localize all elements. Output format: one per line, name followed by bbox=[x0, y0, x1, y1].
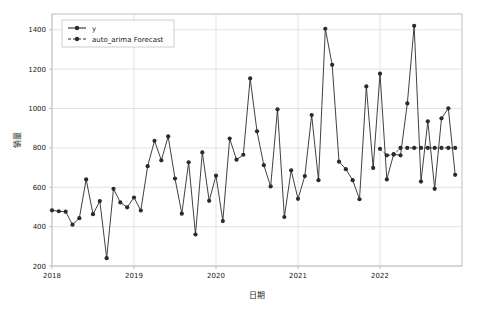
data-point bbox=[453, 173, 457, 177]
legend-label-1: auto_arima Forecast bbox=[92, 36, 164, 44]
data-point bbox=[50, 208, 54, 212]
data-point bbox=[221, 219, 225, 223]
series-line-1 bbox=[380, 148, 455, 155]
data-point bbox=[241, 153, 245, 157]
data-point bbox=[105, 256, 109, 260]
data-point bbox=[207, 199, 211, 203]
data-point bbox=[296, 197, 300, 201]
timeseries-line-chart: 2004006008001000120014002018201920202021… bbox=[0, 0, 493, 310]
data-point bbox=[405, 101, 409, 105]
y-axis-label: 销量 bbox=[12, 132, 22, 148]
data-point bbox=[255, 129, 259, 133]
series-line-0 bbox=[52, 26, 455, 258]
data-point bbox=[446, 146, 450, 150]
y-tick-label: 1000 bbox=[28, 105, 46, 113]
data-point bbox=[337, 160, 341, 164]
figure-canvas: 2004006008001000120014002018201920202021… bbox=[0, 0, 493, 310]
x-tick-label: 2021 bbox=[289, 272, 307, 280]
data-point bbox=[364, 84, 368, 88]
y-tick-label: 800 bbox=[33, 144, 46, 152]
data-point bbox=[64, 210, 68, 214]
data-point bbox=[398, 153, 402, 157]
data-point bbox=[378, 147, 382, 151]
data-point bbox=[357, 197, 361, 201]
data-point bbox=[98, 199, 102, 203]
data-point bbox=[439, 116, 443, 120]
x-tick-label: 2019 bbox=[125, 272, 143, 280]
data-point bbox=[84, 177, 88, 181]
data-point bbox=[269, 184, 273, 188]
x-tick-label: 2022 bbox=[371, 272, 389, 280]
data-point bbox=[453, 146, 457, 150]
data-point bbox=[412, 146, 416, 150]
data-point bbox=[57, 209, 61, 213]
y-tick-label: 400 bbox=[33, 223, 46, 231]
data-point bbox=[351, 178, 355, 182]
chart-plot-area: 2004006008001000120014002018201920202021… bbox=[0, 0, 493, 310]
data-point bbox=[310, 113, 314, 117]
data-point bbox=[439, 146, 443, 150]
y-tick-label: 200 bbox=[33, 263, 46, 271]
data-point bbox=[433, 146, 437, 150]
y-tick-label: 600 bbox=[33, 184, 46, 192]
x-tick-label: 2020 bbox=[207, 272, 225, 280]
data-point bbox=[446, 106, 450, 110]
data-point bbox=[187, 160, 191, 164]
data-point bbox=[344, 167, 348, 171]
data-point bbox=[173, 176, 177, 180]
legend-marker-0 bbox=[75, 26, 79, 30]
data-point bbox=[303, 174, 307, 178]
data-point bbox=[214, 174, 218, 178]
data-point bbox=[385, 177, 389, 181]
data-point bbox=[426, 146, 430, 150]
data-point bbox=[262, 163, 266, 167]
legend-label-0: y bbox=[92, 25, 96, 33]
data-point bbox=[91, 212, 95, 216]
data-point bbox=[180, 212, 184, 216]
data-point bbox=[398, 146, 402, 150]
data-point bbox=[70, 223, 74, 227]
data-point bbox=[166, 134, 170, 138]
y-tick-label: 1400 bbox=[28, 26, 46, 34]
data-point bbox=[159, 158, 163, 162]
data-point bbox=[316, 178, 320, 182]
data-point bbox=[228, 137, 232, 141]
plot-frame bbox=[52, 14, 462, 266]
data-point bbox=[371, 166, 375, 170]
data-point bbox=[405, 146, 409, 150]
data-point bbox=[289, 168, 293, 172]
y-tick-label: 1200 bbox=[28, 66, 46, 74]
legend-marker-1 bbox=[75, 37, 79, 41]
data-point bbox=[152, 139, 156, 143]
data-point bbox=[433, 187, 437, 191]
data-point bbox=[193, 232, 197, 236]
data-point bbox=[378, 72, 382, 76]
data-point bbox=[426, 119, 430, 123]
data-point bbox=[234, 158, 238, 162]
data-point bbox=[282, 215, 286, 219]
data-point bbox=[392, 152, 396, 156]
data-point bbox=[323, 27, 327, 31]
data-point bbox=[330, 63, 334, 67]
data-point bbox=[248, 76, 252, 80]
data-point bbox=[275, 107, 279, 111]
data-point bbox=[111, 187, 115, 191]
data-point bbox=[385, 153, 389, 157]
data-point bbox=[125, 205, 129, 209]
x-tick-label: 2018 bbox=[43, 272, 61, 280]
data-point bbox=[132, 195, 136, 199]
data-point bbox=[118, 200, 122, 204]
data-point bbox=[139, 208, 143, 212]
data-point bbox=[419, 146, 423, 150]
data-point bbox=[77, 216, 81, 220]
x-axis-label: 日期 bbox=[249, 291, 265, 300]
data-point bbox=[412, 24, 416, 28]
data-point bbox=[419, 179, 423, 183]
data-point bbox=[200, 150, 204, 154]
data-point bbox=[146, 164, 150, 168]
